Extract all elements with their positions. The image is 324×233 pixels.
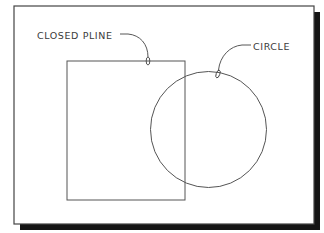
- circle-label: CIRCLE: [253, 41, 290, 52]
- closed-pline-label: CLOSED PLINE: [37, 30, 113, 41]
- diagram-canvas: CLOSED PLINE CIRCLE: [0, 0, 324, 233]
